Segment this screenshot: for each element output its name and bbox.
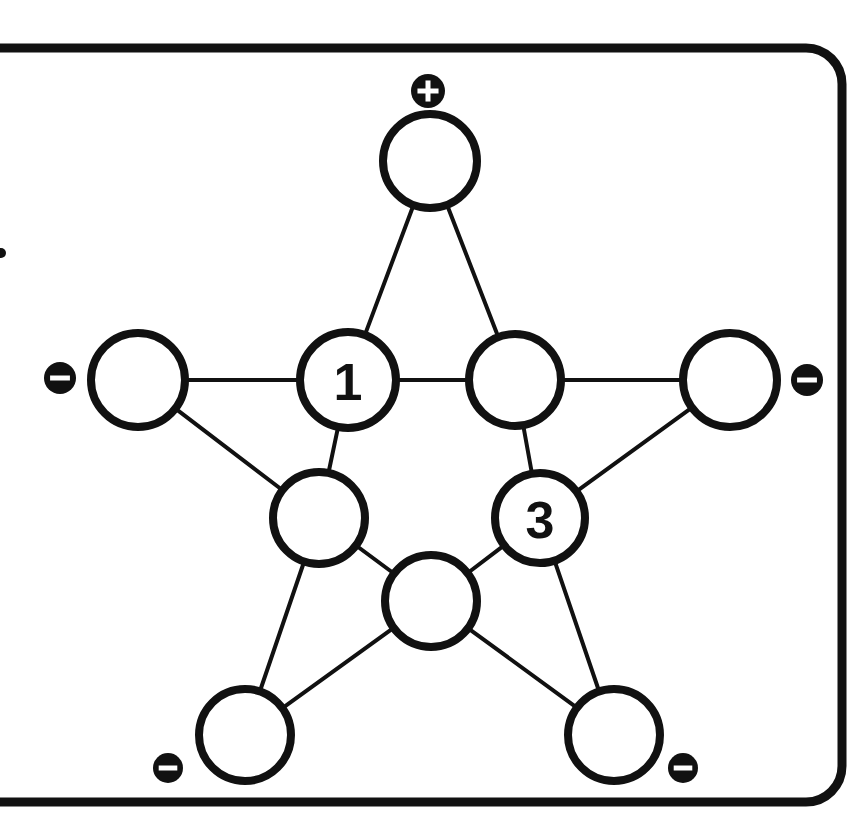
node-left-point[interactable] [91,333,185,427]
edge-left-point-to-inner-left [176,409,281,489]
edge-bottom-left-point-to-inner-bottom [283,628,393,707]
nodes-layer: 13 [91,114,777,781]
node-label-inner-right: 3 [526,491,555,549]
star-puzzle-board: 13 [0,0,859,820]
edge-right-point-to-inner-right [577,408,691,491]
edge-bottom-right-point-to-inner-right [555,562,599,691]
node-inner-left[interactable] [273,472,365,564]
edge-inner-upper-right-to-inner-right [523,426,531,472]
mark-left-edge-dot [0,248,6,258]
node-top-point[interactable] [383,114,477,208]
minus-icon-badge-right [791,364,823,396]
plus-icon-badge-top [411,74,445,108]
puzzle-stage: 13 [0,0,859,820]
edge-top-point-to-inner-upper-left [365,206,413,334]
node-inner-upper-left[interactable]: 1 [300,332,396,428]
minus-icon-badge-bottom-left [153,753,183,783]
node-circle-inner-left[interactable] [273,472,365,564]
node-circle-bottom-left-point[interactable] [199,689,291,781]
edge-inner-right-to-inner-bottom [468,546,503,573]
node-inner-right[interactable]: 3 [495,473,585,563]
node-circle-right-point[interactable] [683,333,777,427]
node-bottom-right-point[interactable] [568,689,660,781]
marks-layer [0,248,6,258]
edge-bottom-right-point-to-inner-bottom [469,629,576,707]
node-inner-upper-right[interactable] [469,334,561,426]
edge-inner-bottom-to-inner-left [357,546,393,573]
node-circle-top-point[interactable] [383,114,477,208]
node-circle-inner-upper-right[interactable] [469,334,561,426]
node-inner-bottom[interactable] [385,555,477,647]
node-right-point[interactable] [683,333,777,427]
edge-inner-left-to-inner-upper-left [329,428,338,472]
minus-icon-badge-left [44,362,76,394]
node-label-inner-upper-left: 1 [334,353,363,411]
edge-bottom-left-point-to-inner-left [260,562,304,690]
node-bottom-left-point[interactable] [199,689,291,781]
node-circle-inner-bottom[interactable] [385,555,477,647]
minus-icon-badge-bottom-right [668,753,698,783]
edge-top-point-to-inner-upper-right [447,206,498,336]
node-circle-bottom-right-point[interactable] [568,689,660,781]
node-circle-left-point[interactable] [91,333,185,427]
